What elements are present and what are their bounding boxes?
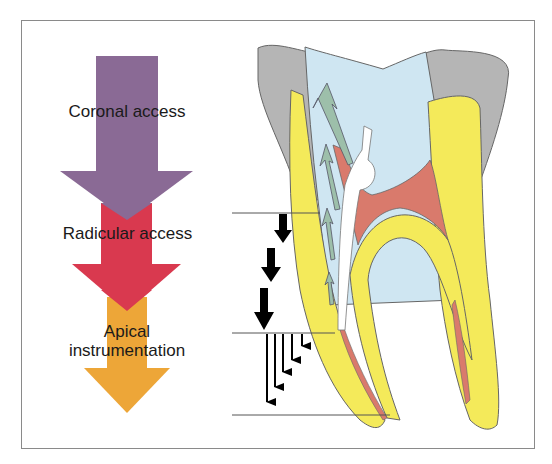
coronal-access-label: Coronal access xyxy=(52,102,202,122)
apical-label-line1: Apical xyxy=(52,322,202,342)
radicular-step-arrows xyxy=(254,214,292,330)
tooth xyxy=(258,45,509,429)
apical-step-arrows xyxy=(267,334,302,402)
apical-label-line2: instrumentation xyxy=(42,341,212,361)
coronal-access-arrow xyxy=(60,56,193,220)
radicular-access-label: Radicular access xyxy=(40,224,215,244)
